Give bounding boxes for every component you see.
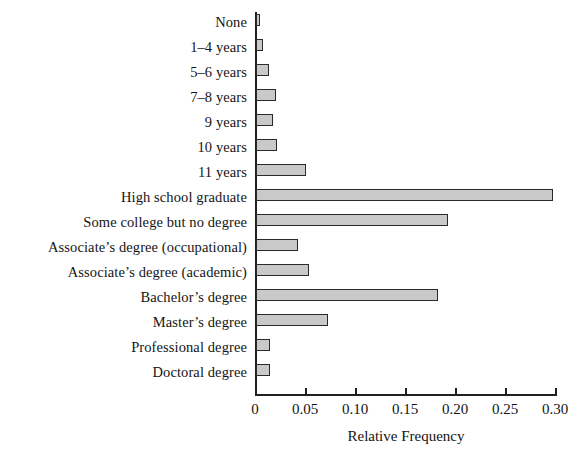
bar xyxy=(256,314,328,326)
x-axis-line: 0 0.05 0.10 0.15 0.20 0.25 0.30 xyxy=(255,394,557,396)
x-axis-title: Relative Frequency xyxy=(255,428,557,445)
x-axis-tick xyxy=(555,388,557,395)
category-label: Associate’s degree (academic) xyxy=(0,265,251,279)
x-axis-tick-label: 0.25 xyxy=(492,401,518,417)
category-label: High school graduate xyxy=(0,190,251,204)
category-label: 9 years xyxy=(0,115,251,129)
category-label: 11 years xyxy=(0,165,251,179)
bar xyxy=(256,164,306,176)
x-axis-tick-label: 0.15 xyxy=(392,401,418,417)
bar xyxy=(256,64,269,76)
category-label: Professional degree xyxy=(0,340,251,354)
category-label: None xyxy=(0,15,251,29)
x-axis-tick-label: 0.10 xyxy=(342,401,368,417)
category-label: 5–6 years xyxy=(0,65,251,79)
bar xyxy=(256,89,276,101)
category-label: Bachelor’s degree xyxy=(0,290,251,304)
bar xyxy=(256,139,277,151)
category-label: Doctoral degree xyxy=(0,365,251,379)
x-axis-tick-label: 0.30 xyxy=(542,401,568,417)
category-label: Some college but no degree xyxy=(0,215,251,229)
bar xyxy=(256,364,270,376)
bar xyxy=(256,39,263,51)
x-axis-tick xyxy=(355,388,357,395)
x-axis-tick-label: 0 xyxy=(251,401,259,417)
category-label: Associate’s degree (occupational) xyxy=(0,240,251,254)
bar xyxy=(256,14,260,26)
bar xyxy=(256,264,309,276)
bar xyxy=(256,114,273,126)
x-axis-tick xyxy=(255,388,257,395)
x-axis-tick-label: 0.20 xyxy=(442,401,468,417)
category-label: 10 years xyxy=(0,140,251,154)
bar xyxy=(256,289,438,301)
x-axis-tick xyxy=(305,388,307,395)
x-axis-tick-label: 0.05 xyxy=(292,401,318,417)
category-label: 7–8 years xyxy=(0,90,251,104)
bar xyxy=(256,214,448,226)
x-axis-tick xyxy=(405,388,407,395)
bar xyxy=(256,339,270,351)
bar xyxy=(256,189,553,201)
category-label: Master’s degree xyxy=(0,315,251,329)
category-label: 1–4 years xyxy=(0,40,251,54)
x-axis-tick xyxy=(505,388,507,395)
x-axis-tick xyxy=(455,388,457,395)
bar xyxy=(256,239,298,251)
relative-frequency-bar-chart: None 1–4 years 5–6 years 7–8 years 9 yea… xyxy=(0,0,579,461)
plot-area xyxy=(255,12,575,394)
